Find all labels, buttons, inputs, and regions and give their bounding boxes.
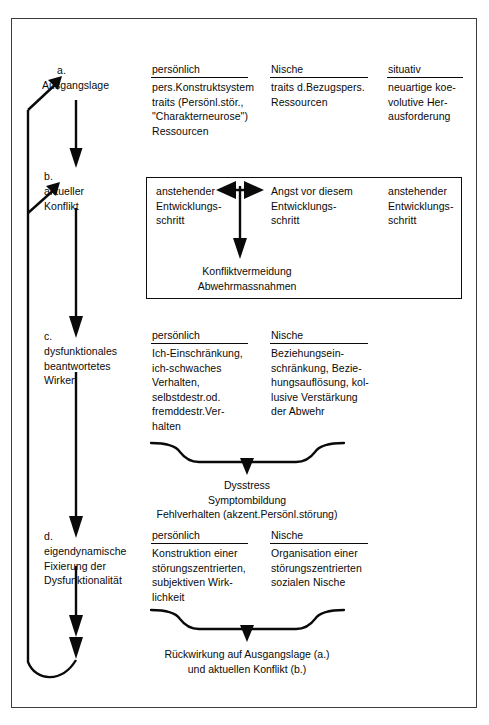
stage-c-label-line3: Wirken: [44, 373, 77, 388]
stage-d-col2-line1: Organisation einer: [271, 546, 358, 561]
stage-b-outcome-line1: Konfliktvermeidung: [140, 264, 354, 279]
stage-c-marker: c.: [44, 329, 52, 344]
stage-c-col1-line5: fremddestr.Ver-: [152, 404, 225, 419]
stage-d-col1-rule: [151, 543, 248, 544]
stage-a-marker: a.: [57, 63, 66, 78]
stage-a-col3-line2: volutive Her-: [388, 95, 448, 110]
stage-b-col2-line1: Angst vor diesem: [271, 184, 353, 199]
stage-d-col2-line3: sozialen Nische: [271, 575, 345, 590]
stage-a-col1-header: persönlich: [152, 63, 200, 76]
stage-d-col1-line4: lichkeit: [152, 590, 185, 605]
stage-a-col3-header: situativ: [388, 63, 421, 76]
stage-a-col3-rule: [387, 77, 463, 78]
stage-c-col2-rule: [270, 343, 368, 344]
stage-c-col2-line4: lusive Verstärkung: [271, 390, 358, 405]
stage-d-col2-rule: [270, 543, 368, 544]
stage-a-col3-line1: neuartige koe-: [388, 80, 456, 95]
stage-b-label-line1: aktueller: [44, 184, 84, 199]
stage-d-label-line1: eigendynamische: [44, 544, 126, 559]
stage-d-outcome-line1: Rückwirkung auf Ausgangslage (a.): [130, 647, 364, 662]
stage-c-col1-line3: Verhalten,: [152, 375, 200, 390]
stage-b-col1-line3: schritt: [156, 213, 184, 228]
stage-c-outcome-line1: Dysstress: [130, 478, 364, 493]
stage-b-col2-line2: Entwicklungs-: [271, 199, 336, 214]
stage-c-col2-line1: Beziehungsein-: [271, 346, 344, 361]
stage-c-col2-header: Nische: [271, 329, 303, 342]
stage-c-col1-rule: [151, 343, 248, 344]
stage-d-label-line3: Dysfunktionalität: [44, 573, 122, 588]
stage-c-col2-line2: schränkung, Bezie-: [271, 361, 362, 376]
stage-a-col2-line2: Ressourcen: [271, 95, 328, 110]
stage-d-col1-line3: subjektiven Wirk-: [152, 575, 233, 590]
stage-c-col1-line4: selbstdestr.od.: [152, 390, 220, 405]
stage-d-col2-header: Nische: [271, 529, 303, 542]
stage-a-col1-rule: [151, 77, 248, 78]
stage-a-col1-line2: traits (Persönl.stör.,: [152, 95, 244, 110]
stage-c-col1-line1: Ich-Einschränkung,: [152, 346, 243, 361]
diagram-canvas: a. Ausgangslage persönlich pers.Konstruk…: [0, 0, 489, 725]
stage-d-label-line2: Fixierung der: [44, 559, 106, 574]
stage-b-label-line2: Konflikt: [44, 199, 79, 214]
stage-a-col1-line1: pers.Konstruktsystem: [152, 80, 254, 95]
stage-a-label: Ausgangslage: [42, 78, 109, 93]
stage-a-col1-line3: "Charakterneurose"): [152, 109, 248, 124]
stage-d-col2-line2: störungszentrierten: [271, 561, 362, 576]
stage-b-col1-line1: anstehender: [156, 184, 215, 199]
stage-d-col1-header: persönlich: [152, 529, 200, 542]
stage-d-outcome-line2: und aktuellen Konflikt (b.): [130, 662, 364, 677]
stage-c-col2-line3: hungsauflösung, kol-: [271, 375, 369, 390]
stage-c-outcome-line2: Symptombildung: [130, 493, 364, 508]
stage-b-outcome-line2: Abwehrmassnahmen: [140, 279, 354, 294]
stage-a-col3-line3: ausforderung: [388, 109, 450, 124]
stage-c-col1-line2: ich-schwaches: [152, 361, 222, 376]
stage-c-col1-line6: halten: [152, 419, 181, 434]
stage-a-col1-line4: Ressourcen: [152, 124, 209, 139]
stage-b-col2-line3: schritt: [271, 213, 299, 228]
stage-b-col3-line1: anstehender: [388, 184, 447, 199]
stage-a-col2-line1: traits d.Bezugspers.: [271, 80, 365, 95]
stage-d-marker: d.: [44, 529, 53, 544]
stage-d-col1-line2: störungszentrierten,: [152, 561, 246, 576]
stage-a-col2-rule: [270, 77, 368, 78]
stage-b-col3-line3: schritt: [388, 213, 416, 228]
stage-b-col1-line2: Entwicklungs-: [156, 199, 221, 214]
stage-c-label-line1: dysfunktionales: [44, 344, 117, 359]
stage-b-marker: b.: [44, 169, 53, 184]
stage-d-col1-line1: Konstruktion einer: [152, 546, 238, 561]
stage-c-col2-line5: der Abwehr: [271, 404, 325, 419]
stage-c-col1-header: persönlich: [152, 329, 200, 342]
stage-c-label-line2: beantwortetes: [44, 359, 111, 374]
stage-b-col3-line2: Entwicklungs-: [388, 199, 453, 214]
stage-c-outcome-line3: Fehlverhalten (akzent.Persönl.störung): [130, 507, 364, 522]
stage-a-col2-header: Nische: [271, 63, 303, 76]
